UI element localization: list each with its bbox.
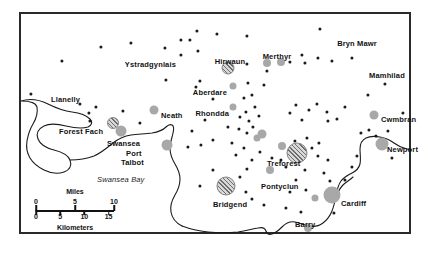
town-circle — [230, 104, 237, 111]
scale-km-tick-label: 0 — [34, 213, 38, 220]
place-label: Swansea — [107, 140, 140, 148]
scale-miles-tick-label: 10 — [110, 198, 118, 205]
town-circle — [324, 187, 341, 204]
scale-km-tick-label: 5 — [58, 213, 62, 220]
scale-miles-title: Miles — [36, 188, 114, 195]
scale-miles-tick-label: 0 — [34, 198, 38, 205]
water-body-label: Swansea Bay — [97, 176, 145, 184]
place-label: Treforest — [267, 160, 300, 168]
place-label: Ystradgynlais — [125, 61, 176, 69]
place-label: Pontyclun — [261, 183, 299, 191]
place-label: Bryn Mawr — [337, 40, 377, 48]
town-circle — [278, 142, 286, 150]
place-label: Forest Fach — [59, 128, 103, 136]
place-label: Neath — [161, 112, 183, 120]
place-label: Hirwaun — [215, 58, 246, 66]
place-label: Barry — [295, 221, 315, 229]
scale-km-tick-label: 10 — [80, 213, 88, 220]
scale-tick-upper — [74, 205, 76, 211]
town-circle — [370, 111, 379, 120]
town-circle — [230, 83, 237, 90]
place-label: Bridgend — [213, 201, 247, 209]
place-label: Port — [126, 150, 142, 158]
place-label: Cwmbran — [381, 116, 416, 124]
place-label: Aberdare — [193, 89, 227, 97]
scale-km-title: Kilometers — [36, 224, 114, 231]
industrial-estate-symbol — [107, 117, 119, 129]
place-label: Cardiff — [341, 200, 366, 208]
town-circle — [312, 195, 319, 202]
industrial-estate-symbol — [217, 177, 236, 196]
place-label: Newport — [387, 146, 418, 154]
place-label: Mamhilad — [369, 72, 405, 80]
map-figure: YstradgynlaisHirwaunMerthyrBryn MawrMamh… — [0, 0, 426, 260]
place-label: Rhondda — [195, 110, 229, 118]
town-circle — [162, 140, 173, 151]
place-label: Talbot — [121, 159, 144, 167]
scale-miles-tick-label: 5 — [73, 198, 77, 205]
place-label: Merthyr — [263, 53, 292, 61]
scale-tick-upper — [113, 205, 115, 211]
town-circle — [150, 106, 159, 115]
scale-km-ticklabels: 051015 — [36, 213, 114, 222]
town-circle — [254, 135, 261, 142]
place-label: Llanelly — [51, 96, 80, 104]
scale-km-tick-label: 15 — [105, 213, 113, 220]
